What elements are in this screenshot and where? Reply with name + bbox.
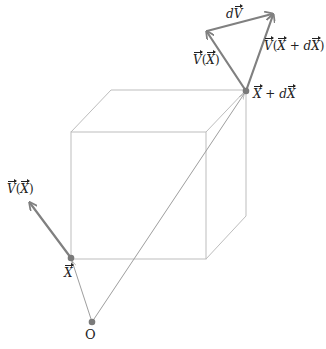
label-v-at-x: V(X) — [7, 183, 34, 195]
vector-v-at-x-plus-dx — [246, 15, 273, 91]
cube-top-right-edge — [206, 90, 246, 132]
cube-front-face — [71, 132, 206, 259]
point-x — [68, 255, 75, 262]
label-arg: X — [206, 54, 215, 66]
label-v: V — [7, 183, 16, 195]
label-arg-x: X — [277, 40, 286, 52]
label-v: V — [264, 40, 273, 52]
label-dv-v: V — [234, 8, 243, 20]
label-x-vector: X — [64, 267, 73, 279]
cube — [71, 90, 246, 259]
label-x-plus-dx-d: d — [279, 87, 287, 101]
position-vectors — [72, 94, 244, 322]
cube-back-edges — [71, 90, 246, 259]
field-vectors — [30, 14, 273, 258]
label-arg-op: + — [286, 39, 304, 53]
position-vector-x — [72, 261, 92, 322]
label-x-plus-dx-op: + — [262, 87, 280, 101]
label-v-at-x-plus-dx: V(X + dX) — [264, 40, 325, 52]
paren-close: ) — [29, 182, 34, 196]
label-dv: dV — [226, 8, 242, 20]
label-dv-d: d — [226, 7, 234, 21]
paren-close: ) — [320, 39, 325, 53]
label-v-at-x-translated: V(X) — [193, 54, 220, 66]
label-origin: O — [85, 328, 96, 341]
label-x-plus-dx: X + dX — [253, 88, 295, 100]
label-arg-x2: X — [311, 40, 320, 52]
point-x-plus-dx — [243, 88, 250, 95]
point-origin — [89, 319, 96, 326]
label-x-plus-dx-x2: X — [287, 88, 296, 100]
vector-v-at-x — [30, 203, 71, 258]
paren-close: ) — [215, 53, 220, 67]
label-x: X — [64, 267, 73, 279]
label-v: V — [193, 54, 202, 66]
points — [68, 88, 250, 326]
position-vector-x-plus-dx — [92, 94, 244, 322]
label-x-plus-dx-x: X — [253, 88, 262, 100]
label-arg: X — [20, 183, 29, 195]
